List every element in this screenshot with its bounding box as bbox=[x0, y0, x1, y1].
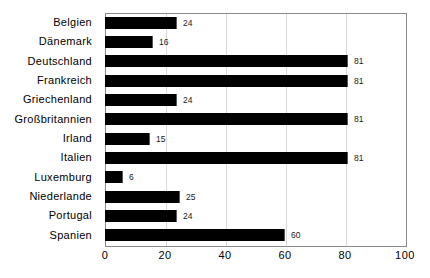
bar bbox=[105, 94, 177, 106]
category-label: Niederlande bbox=[29, 187, 92, 206]
bar-value-label: 16 bbox=[159, 35, 168, 49]
bar bbox=[105, 17, 177, 29]
category-label: Irland bbox=[63, 129, 92, 148]
category-label: Großbritannien bbox=[14, 110, 92, 129]
bars-layer: 24168181248115816252460 bbox=[105, 13, 405, 245]
category-label: Portugal bbox=[49, 206, 92, 225]
bar bbox=[105, 113, 348, 125]
bar-row: 24 bbox=[105, 206, 405, 225]
bar bbox=[105, 152, 348, 164]
bar-row: 81 bbox=[105, 71, 405, 90]
x-tick-label: 80 bbox=[338, 249, 351, 261]
bar-value-label: 24 bbox=[183, 16, 192, 30]
bar-row: 81 bbox=[105, 110, 405, 129]
bar bbox=[105, 191, 180, 203]
bar-row: 81 bbox=[105, 148, 405, 167]
bar bbox=[105, 75, 348, 87]
category-label: Italien bbox=[61, 148, 92, 167]
bar-row: 25 bbox=[105, 187, 405, 206]
category-label: Frankreich bbox=[37, 71, 92, 90]
bar-value-label: 81 bbox=[354, 74, 363, 88]
x-tick-label: 20 bbox=[158, 249, 171, 261]
x-tick-label: 100 bbox=[395, 249, 415, 261]
category-label: Luxemburg bbox=[34, 168, 92, 187]
category-label: Deutschland bbox=[28, 52, 92, 71]
bar bbox=[105, 210, 177, 222]
category-label: Spanien bbox=[50, 226, 92, 245]
bar-row: 24 bbox=[105, 13, 405, 32]
bar-value-label: 60 bbox=[291, 228, 300, 242]
bar-value-label: 6 bbox=[129, 170, 134, 184]
bar-value-label: 25 bbox=[186, 190, 195, 204]
bar-value-label: 15 bbox=[156, 132, 165, 146]
x-tick-label: 60 bbox=[278, 249, 291, 261]
bar-chart: BelgienDänemarkDeutschlandFrankreichGrie… bbox=[0, 0, 430, 278]
bar-row: 60 bbox=[105, 226, 405, 245]
x-tick-label: 40 bbox=[218, 249, 231, 261]
bar-value-label: 81 bbox=[354, 54, 363, 68]
value-axis: 020406080100 bbox=[105, 246, 405, 270]
bar-row: 24 bbox=[105, 90, 405, 109]
bar-value-label: 24 bbox=[183, 209, 192, 223]
bar bbox=[105, 229, 285, 241]
bar bbox=[105, 171, 123, 183]
x-tick-label: 0 bbox=[102, 249, 109, 261]
category-label: Griechenland bbox=[23, 90, 92, 109]
bar bbox=[105, 36, 153, 48]
category-label: Dänemark bbox=[39, 32, 92, 51]
bar bbox=[105, 133, 150, 145]
bar-row: 15 bbox=[105, 129, 405, 148]
bar-row: 6 bbox=[105, 168, 405, 187]
bar bbox=[105, 55, 348, 67]
bar-value-label: 81 bbox=[354, 151, 363, 165]
category-label: Belgien bbox=[53, 13, 92, 32]
category-axis-labels: BelgienDänemarkDeutschlandFrankreichGrie… bbox=[0, 13, 99, 245]
bar-row: 16 bbox=[105, 32, 405, 51]
bar-row: 81 bbox=[105, 52, 405, 71]
bar-value-label: 24 bbox=[183, 93, 192, 107]
bar-value-label: 81 bbox=[354, 112, 363, 126]
